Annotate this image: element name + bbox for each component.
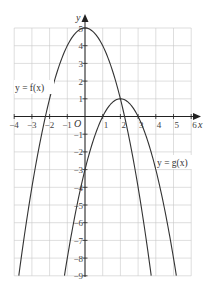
origin-label: O <box>74 118 81 129</box>
x-tick-label: 6 <box>192 120 197 130</box>
x-tick-label: −3 <box>27 120 37 130</box>
y-axis-arrow-icon <box>82 14 89 22</box>
y-tick-label: −7 <box>73 236 83 246</box>
x-tick-label: 4 <box>157 120 162 130</box>
grid <box>14 28 191 276</box>
y-axis-label: y <box>75 12 81 23</box>
x-tick-label: −2 <box>45 120 55 130</box>
y-tick-label: −2 <box>73 147 83 157</box>
x-axis-label: x <box>197 119 203 130</box>
x-tick-label: −1 <box>62 120 72 130</box>
y-tick-label: −1 <box>73 130 83 140</box>
y-tick-label: −8 <box>73 254 83 264</box>
g-curve-label: y = g(x) <box>157 158 188 169</box>
x-tick-label: 5 <box>175 120 180 130</box>
function-graph: x y O −4−3−2−112345654321−1−2−3−4−5−6−7−… <box>0 0 212 296</box>
y-tick-label: 2 <box>79 77 84 87</box>
x-tick-label: −4 <box>9 120 19 130</box>
axes: x y O <box>14 12 203 277</box>
y-tick-label: 3 <box>79 59 84 69</box>
x-tick-label: 1 <box>104 120 109 130</box>
tick-labels: −4−3−2−112345654321−1−2−3−4−5−6−7−8−9 <box>9 24 197 282</box>
y-tick-label: 4 <box>79 41 84 51</box>
y-tick-label: −6 <box>73 218 83 228</box>
y-tick-label: −9 <box>73 271 83 281</box>
f-curve-label: y = f(x) <box>15 83 44 94</box>
y-tick-label: 1 <box>79 94 84 104</box>
y-tick-label: −5 <box>73 201 83 211</box>
y-tick-label: −3 <box>73 165 83 175</box>
